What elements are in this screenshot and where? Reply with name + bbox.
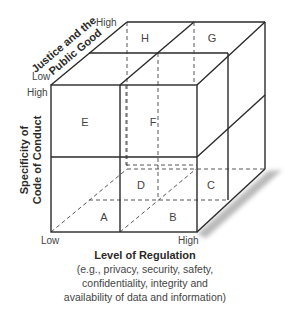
cell-label-g: G [208,32,217,44]
x-axis-caption: Level of Regulation (e.g., privacy, secu… [0,248,290,304]
x-axis-label: Level of Regulation [0,248,290,262]
cell-label-f: F [150,116,157,128]
cell-label-e: E [81,116,88,128]
svg-text:Specificity of: Specificity of [18,125,30,194]
x-axis-low: Low [41,235,60,246]
cell-label-b: B [169,211,176,223]
svg-text:Code of Conduct: Code of Conduct [31,115,43,204]
cell-label-a: A [100,211,108,223]
y-axis-high: High [27,87,48,98]
cell-label-d: D [137,179,145,191]
z-axis-high: High [96,17,117,28]
cell-label-c: C [207,179,215,191]
x-axis-description-line-2: confidentiality, integrity and [0,276,290,290]
x-axis-description-line-3: availability of data and information) [0,290,290,304]
x-axis-high: High [178,235,199,246]
cell-label-h: H [141,32,149,44]
x-axis-description-line-1: (e.g., privacy, security, safety, [0,262,290,276]
y-axis-label: Specificity of Code of Conduct [18,115,43,204]
